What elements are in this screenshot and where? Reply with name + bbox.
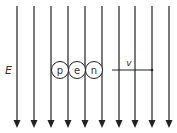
proton-label: p xyxy=(57,65,63,76)
arrow-down-icon xyxy=(116,120,123,128)
arrow-down-icon xyxy=(166,120,173,128)
velocity-label: v xyxy=(126,58,132,68)
arrow-down-icon xyxy=(99,120,106,128)
velocity-vector: v xyxy=(112,58,153,71)
electron-label: e xyxy=(74,65,80,76)
arrow-down-icon xyxy=(149,120,156,128)
arrow-down-icon xyxy=(14,120,21,128)
arrow-down-icon xyxy=(48,120,55,128)
arrow-down-icon xyxy=(132,120,139,128)
particles: p e n xyxy=(52,62,103,79)
arrow-down-icon xyxy=(82,120,89,128)
velocity-arrowhead-icon xyxy=(151,69,154,72)
neutron-label: n xyxy=(91,65,97,76)
arrow-down-icon xyxy=(31,120,38,128)
arrow-down-icon xyxy=(65,120,72,128)
electric-field-diagram: E p e n v xyxy=(0,0,177,133)
field-label: E xyxy=(5,64,12,77)
